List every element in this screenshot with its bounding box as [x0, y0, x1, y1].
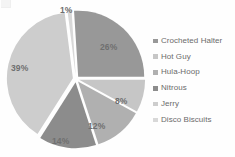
- legend-item-crocheted-halter[interactable]: Crocheted Halter: [152, 33, 235, 49]
- legend-label: Hula-Hoop: [161, 68, 200, 76]
- legend-label: Disco Biscuits: [161, 116, 212, 124]
- legend-swatch-icon: [153, 39, 158, 44]
- pie-svg: [0, 0, 152, 157]
- legend-label: Nitrous: [161, 84, 187, 92]
- legend-swatch-icon: [153, 102, 158, 107]
- chart-legend: Crocheted Halter Hot Guy Hula-Hoop Nitro…: [152, 33, 235, 133]
- slice-label-hula-hoop: 12%: [88, 121, 105, 131]
- pie-plot-area: 26% 8% 12% 14% 39% 1%: [0, 0, 152, 157]
- legend-swatch-icon: [153, 54, 158, 59]
- pie-chart: 26% 8% 12% 14% 39% 1% Crocheted Halter H…: [0, 0, 235, 157]
- legend-item-hot-guy[interactable]: Hot Guy: [152, 49, 235, 65]
- slice-label-jerry: 39%: [11, 63, 28, 73]
- slice-label-hot-guy: 8%: [115, 96, 128, 106]
- slice-label-nitrous: 14%: [52, 136, 69, 146]
- legend-item-nitrous[interactable]: Nitrous: [152, 80, 235, 96]
- legend-swatch-icon: [153, 118, 158, 123]
- slice-label-crocheted-halter: 26%: [100, 42, 117, 52]
- legend-swatch-icon: [153, 70, 158, 75]
- legend-swatch-icon: [153, 86, 158, 91]
- legend-label: Jerry: [161, 100, 179, 108]
- slice-label-disco-biscuits: 1%: [60, 5, 73, 15]
- legend-item-hula-hoop[interactable]: Hula-Hoop: [152, 65, 235, 81]
- legend-item-disco-biscuits[interactable]: Disco Biscuits: [152, 112, 235, 128]
- legend-label: Crocheted Halter: [161, 37, 222, 45]
- legend-label: Hot Guy: [161, 53, 191, 61]
- legend-item-jerry[interactable]: Jerry: [152, 96, 235, 112]
